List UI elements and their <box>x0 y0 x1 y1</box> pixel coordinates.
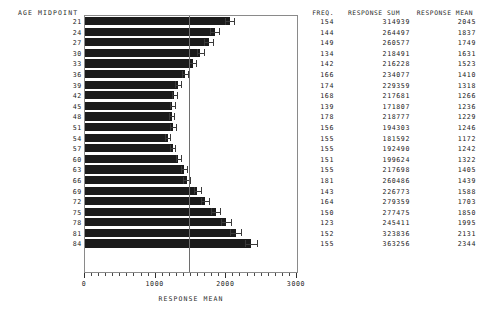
error-bar-cap <box>241 229 242 236</box>
cell-response-mean: 1246 <box>414 123 476 134</box>
table-row: 1422162281523 <box>304 59 476 70</box>
x-axis-minor-tick <box>148 273 149 276</box>
cell-freq: 150 <box>304 208 334 219</box>
bar-row <box>85 238 297 249</box>
cell-freq: 149 <box>304 38 334 49</box>
cell-freq: 139 <box>304 102 334 113</box>
y-axis-tick-label: 30 <box>44 49 82 60</box>
y-axis-tick-label: 45 <box>44 102 82 113</box>
bar <box>85 155 178 163</box>
table-row: 1492605771749 <box>304 38 476 49</box>
y-axis-tick-label: 48 <box>44 112 82 123</box>
cell-response-sum: 192490 <box>338 144 410 155</box>
error-bar-cap <box>170 102 171 109</box>
x-axis-minor-tick <box>232 273 233 276</box>
bar <box>85 134 168 142</box>
cell-response-sum: 264497 <box>338 28 410 39</box>
error-bar-cap <box>204 39 205 46</box>
cell-freq: 142 <box>304 59 334 70</box>
error-bar-cap <box>225 18 226 25</box>
y-axis-tick-label: 51 <box>44 123 82 134</box>
x-axis-tick-labels: 0100020003000 <box>84 280 298 290</box>
cell-response-sum: 218777 <box>338 112 410 123</box>
bar <box>85 38 209 46</box>
bar <box>85 102 172 110</box>
bar-row <box>85 122 297 133</box>
bar-row <box>85 175 297 186</box>
x-axis-ticks <box>84 273 298 279</box>
error-bar-cap <box>176 124 177 131</box>
x-axis-minor-tick <box>91 273 92 276</box>
cell-freq: 174 <box>304 81 334 92</box>
x-axis-minor-tick <box>105 273 106 276</box>
cell-response-sum: 260577 <box>338 38 410 49</box>
x-axis-minor-tick <box>204 273 205 276</box>
statistics-table: FREQ. RESPONSE SUM RESPONSE MEAN 1543149… <box>304 9 476 18</box>
x-axis-tick-label: 1000 <box>146 280 164 288</box>
y-axis-tick-label: 72 <box>44 197 82 208</box>
error-bar-cap <box>194 187 195 194</box>
bar <box>85 229 236 237</box>
y-axis-tick-label: 54 <box>44 134 82 145</box>
table-row: 1442644971837 <box>304 28 476 39</box>
chart-page: AGE MIDPOINT 212427303336394245485154576… <box>0 0 480 314</box>
y-axis-tick-label: 78 <box>44 218 82 229</box>
table-row: 1662340771410 <box>304 70 476 81</box>
cell-response-sum: 277475 <box>338 208 410 219</box>
error-bar-cap <box>165 134 166 141</box>
cell-response-mean: 1837 <box>414 28 476 39</box>
cell-response-sum: 279359 <box>338 197 410 208</box>
table-row: 1543149392045 <box>304 17 476 28</box>
cell-response-sum: 260486 <box>338 176 410 187</box>
cell-response-sum: 217681 <box>338 91 410 102</box>
error-bar-cap <box>209 198 210 205</box>
bar <box>85 197 205 205</box>
x-axis-tick-label: 3000 <box>287 280 305 288</box>
bar-row <box>85 16 297 27</box>
cell-response-mean: 1749 <box>414 38 476 49</box>
column-header-freq: FREQ. <box>304 9 334 16</box>
table-row: 1523238362131 <box>304 229 476 240</box>
cell-response-sum: 194303 <box>338 123 410 134</box>
bar-row <box>85 27 297 38</box>
bar-row <box>85 101 297 112</box>
bar-row <box>85 186 297 197</box>
table-row: 1502774751850 <box>304 208 476 219</box>
x-axis-minor-tick <box>268 273 269 276</box>
cell-response-sum: 181592 <box>338 134 410 145</box>
bar-row <box>85 37 297 48</box>
error-bar-cap <box>183 177 184 184</box>
bar-row <box>85 164 297 175</box>
table-row: 1551815921172 <box>304 134 476 145</box>
x-axis-minor-tick <box>169 273 170 276</box>
error-bar-cap <box>170 124 171 131</box>
x-axis-major-tick <box>296 273 297 278</box>
bar-row <box>85 143 297 154</box>
table-row: 1232454111995 <box>304 218 476 229</box>
error-bar-cap <box>213 39 214 46</box>
x-axis-minor-tick <box>239 273 240 276</box>
y-axis-tick-label: 33 <box>44 59 82 70</box>
cell-response-mean: 1405 <box>414 165 476 176</box>
error-bar-cap <box>245 240 246 247</box>
cell-response-mean: 1523 <box>414 59 476 70</box>
bar-row <box>85 133 297 144</box>
cell-response-mean: 2131 <box>414 229 476 240</box>
table-row: 1742293591318 <box>304 81 476 92</box>
cell-freq: 151 <box>304 155 334 166</box>
bar-row <box>85 58 297 69</box>
error-bar <box>204 42 212 43</box>
bar <box>85 112 172 120</box>
x-axis-minor-tick <box>247 273 248 276</box>
error-bar-cap <box>181 155 182 162</box>
x-axis-minor-tick <box>183 273 184 276</box>
cell-freq: 155 <box>304 144 334 155</box>
error-bar <box>245 244 257 245</box>
cell-freq: 155 <box>304 165 334 176</box>
x-axis-minor-tick <box>261 273 262 276</box>
y-axis-tick-label: 36 <box>44 70 82 81</box>
cell-freq: 164 <box>304 197 334 208</box>
error-bar-cap <box>182 71 183 78</box>
x-axis-tick-label: 0 <box>82 280 87 288</box>
cell-response-sum: 226773 <box>338 187 410 198</box>
